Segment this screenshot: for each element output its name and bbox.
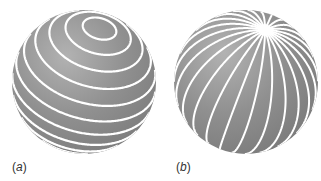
panel-a-letter: a [16, 160, 23, 174]
sphere-b [174, 10, 318, 154]
panel-a-label: (a) [12, 160, 27, 174]
sphere-a [12, 10, 156, 154]
figure-canvas [0, 0, 321, 181]
panel-b-letter: b [180, 160, 187, 174]
panel-b-label: (b) [176, 160, 191, 174]
pole-highlight [259, 24, 271, 36]
